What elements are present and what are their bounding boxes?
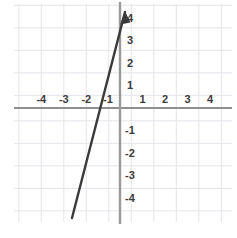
y-tick-label-neg3: -3 bbox=[125, 169, 135, 181]
y-tick-label-2: 2 bbox=[127, 57, 133, 69]
y-tick-label-3: 3 bbox=[127, 34, 133, 46]
x-tick-label-neg2: -2 bbox=[81, 93, 91, 105]
x-tick-label-1: 1 bbox=[139, 93, 145, 105]
y-tick-label-1: 1 bbox=[127, 79, 133, 91]
x-tick-label-neg4: -4 bbox=[36, 93, 47, 105]
y-tick-label-neg4: -4 bbox=[125, 192, 136, 204]
coordinate-graph: -4 -3 -2 -1 1 2 3 4 4 3 2 1 -1 -2 -3 -4 bbox=[0, 0, 237, 238]
y-tick-label-4: 4 bbox=[127, 12, 134, 24]
x-tick-label-neg3: -3 bbox=[59, 93, 69, 105]
x-tick-label-neg1: -1 bbox=[103, 93, 113, 105]
graph-screenshot: -4 -3 -2 -1 1 2 3 4 4 3 2 1 -1 -2 -3 -4 bbox=[0, 0, 237, 238]
x-tick-label-3: 3 bbox=[184, 93, 190, 105]
y-tick-label-neg1: -1 bbox=[125, 124, 135, 136]
x-tick-label-4: 4 bbox=[207, 93, 214, 105]
x-tick-label-2: 2 bbox=[162, 93, 168, 105]
y-tick-label-neg2: -2 bbox=[125, 147, 135, 159]
